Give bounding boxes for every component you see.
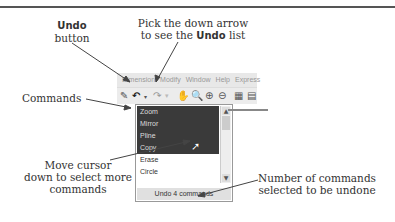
callout-arrows — [0, 0, 395, 222]
